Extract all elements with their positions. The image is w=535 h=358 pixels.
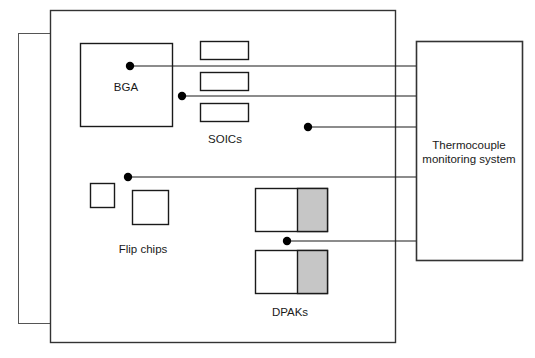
- monitoring-system-label-line1: Thermocouple: [432, 139, 506, 151]
- thermocouple-dot-flip[interactable]: [124, 173, 132, 181]
- dpak-2-tab: [298, 251, 328, 294]
- thermocouple-dot-bga[interactable]: [126, 62, 134, 70]
- diagram-canvas: BGA SOICs Flip chips: [0, 0, 535, 358]
- thermocouple-monitoring-system[interactable]: Thermocouple monitoring system: [417, 42, 523, 261]
- dpaks-label: DPAKs: [272, 306, 308, 318]
- soic-body-3[interactable]: [201, 104, 249, 122]
- thermocouple-diagram: BGA SOICs Flip chips: [0, 0, 535, 358]
- dpak-2[interactable]: [256, 251, 328, 294]
- dpak-1[interactable]: [256, 189, 328, 232]
- flip-chip-body-2[interactable]: [133, 191, 169, 225]
- thermocouple-dot-dpak[interactable]: [283, 237, 291, 245]
- soic-body-1[interactable]: [201, 42, 249, 60]
- dpak-1-tab: [298, 189, 328, 232]
- soics-label: SOICs: [208, 133, 242, 145]
- flip-chips-label: Flip chips: [119, 243, 168, 255]
- thermocouple-dot-board[interactable]: [304, 123, 312, 131]
- bga-label: BGA: [114, 81, 139, 93]
- flip-chip-body-1[interactable]: [91, 184, 115, 208]
- thermocouple-dot-soic[interactable]: [178, 92, 186, 100]
- soic-body-2[interactable]: [201, 73, 249, 91]
- monitoring-system-label-line2: monitoring system: [422, 153, 515, 165]
